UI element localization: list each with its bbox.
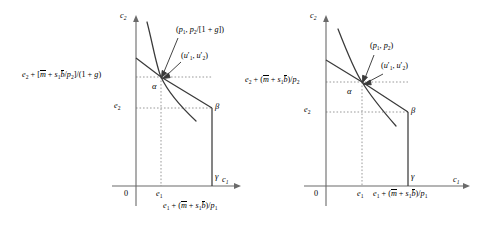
y-axis-label-right: c2 xyxy=(310,12,316,21)
y-tick-lower-right: e2 xyxy=(304,106,310,115)
diagram-panel-right: c2 c1 0 e2 + (m + s1b)/p2 e2 e1 e1 + (m … xyxy=(242,0,483,232)
y-tick-upper-right: e2 + (m + s1b)/p2 xyxy=(245,76,299,85)
y-tick-lower-left: e2 xyxy=(114,102,120,111)
x-axis-arrow-icon xyxy=(234,183,241,189)
x-tick-e1-right: e1 xyxy=(357,190,363,199)
point-alpha-right: α xyxy=(347,87,352,96)
y-axis-arrow-icon xyxy=(133,15,139,22)
price-vector-label-right: (p1, p2) xyxy=(370,42,393,51)
right-annotation-arrows xyxy=(363,55,383,85)
diagram-panel-left: c2 c1 0 e2 + [m + s1b/p2]/(1 + g) e2 e1 … xyxy=(0,0,241,232)
y-axis-arrow-icon xyxy=(323,15,329,22)
price-vector-arrow-line xyxy=(164,38,179,73)
point-beta-right: β xyxy=(411,106,415,115)
x-tick-endowment-right: e1 + (m + s1b)/p1 xyxy=(373,190,427,199)
x-axis-label-left: c1 xyxy=(222,176,228,185)
left-annotation-arrows xyxy=(162,38,182,79)
point-beta-left: β xyxy=(215,102,219,111)
x-axis-arrow-icon xyxy=(463,183,470,189)
figure-root: c2 c1 0 e2 + [m + s1b/p2]/(1 + g) e2 e1 … xyxy=(0,0,483,232)
origin-label-right: 0 xyxy=(314,190,318,198)
right-guide-lines xyxy=(326,82,408,186)
point-gamma-left: γ xyxy=(215,172,218,181)
left-guide-lines xyxy=(136,77,212,186)
y-axis-label-left: c2 xyxy=(120,12,126,21)
x-tick-endowment-left: e1 + (m + s1b)/p1 xyxy=(163,202,217,211)
price-vector-arrowhead-icon xyxy=(363,75,368,82)
utility-gradient-label-right: (u′1, u′2) xyxy=(381,62,408,71)
price-vector-arrow-line xyxy=(365,55,374,78)
x-axis-label-right: c1 xyxy=(453,176,459,185)
x-tick-e1-left: e1 xyxy=(156,190,162,199)
price-vector-label-left: (p1, p2/[1 + g]) xyxy=(176,26,224,35)
y-tick-upper-left: e2 + [m + s1b/p2]/(1 + g) xyxy=(22,71,101,80)
origin-label-left: 0 xyxy=(124,190,128,198)
point-alpha-left: α xyxy=(152,82,157,91)
utility-gradient-label-left: (u′1, u′2) xyxy=(181,52,208,61)
point-gamma-right: γ xyxy=(411,172,414,181)
budget-line-left xyxy=(136,58,212,108)
